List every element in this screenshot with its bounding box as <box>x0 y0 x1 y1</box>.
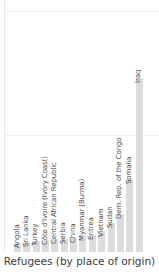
category-label: Sri Lanka <box>23 215 30 246</box>
category-label: Angola <box>14 225 21 249</box>
category-label: Côte d'Ivoire (Ivory Coast) <box>42 157 49 246</box>
category-label: Turkey <box>32 224 39 246</box>
bar[interactable] <box>126 179 133 252</box>
category-label: Sudan <box>107 206 114 228</box>
category-label: Eritrea <box>88 217 95 240</box>
category-label: Dem. Rep. of the Congo <box>116 138 123 220</box>
plot-area: AngolaSri LankaTurkeyCôte d'Ivoire (Ivor… <box>4 0 159 252</box>
category-label: Iraq <box>135 70 142 83</box>
bar[interactable] <box>117 214 124 252</box>
category-label: Serbia <box>60 222 67 244</box>
category-label: Vietnam <box>98 208 105 236</box>
bar-chart: AngolaSri LankaTurkeyCôte d'Ivoire (Ivor… <box>0 0 159 274</box>
category-label: Somalia <box>126 157 133 184</box>
bar[interactable] <box>136 78 143 252</box>
x-axis-title: Refugees (by place of origin) <box>0 255 159 267</box>
category-label: Central African Republic <box>51 163 58 245</box>
axis-left-spine <box>4 0 5 252</box>
category-label: China <box>70 223 77 243</box>
gridline-1 <box>4 11 159 12</box>
category-label: Myanmar (Burma) <box>79 179 86 241</box>
